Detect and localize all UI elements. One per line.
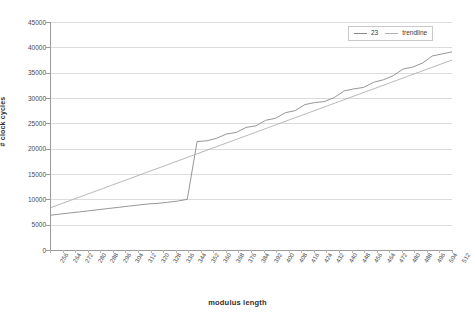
- x-axis-tick-label: 288: [109, 252, 120, 264]
- x-axis-labels: 2562642722802882963043123203283363443523…: [50, 252, 452, 294]
- x-axis-tick-label: 376: [247, 252, 258, 264]
- y-axis-labels: 0500010000150002000025000300003500040000…: [0, 22, 46, 250]
- x-axis-tick-label: 256: [59, 252, 70, 264]
- x-axis-tick-label: 496: [436, 252, 447, 264]
- legend-label-trendline: trendline: [402, 29, 427, 37]
- x-axis-tick-label: 512: [461, 252, 472, 264]
- x-axis-tick-label: 416: [310, 252, 321, 264]
- x-axis-title: modulus length: [0, 298, 475, 307]
- y-axis-tick-label: 5000: [2, 221, 46, 228]
- x-axis-tick-label: 368: [235, 252, 246, 264]
- x-axis-tick-label: 400: [285, 252, 296, 264]
- y-axis-tick-label: 30000: [2, 95, 46, 102]
- x-axis-tick-label: 464: [386, 252, 397, 264]
- x-axis-tick-label: 472: [398, 252, 409, 264]
- x-axis-tick-label: 432: [335, 252, 346, 264]
- chart-legend: 23 trendline: [348, 26, 433, 41]
- plot-area: [50, 22, 452, 250]
- x-axis-tick-label: 312: [147, 252, 158, 264]
- y-axis-tick-mark: [46, 22, 50, 23]
- x-axis-tick-label: 424: [323, 252, 334, 264]
- series-layer: [50, 22, 452, 250]
- y-axis-tick-label: 45000: [2, 19, 46, 26]
- x-axis-tick-label: 296: [122, 252, 133, 264]
- series-line-trendline: [50, 60, 452, 208]
- chart-container: 0500010000150002000025000300003500040000…: [0, 0, 475, 315]
- x-axis-tick-label: 384: [260, 252, 271, 264]
- x-axis-tick-label: 440: [348, 252, 359, 264]
- x-axis-tick-label: 480: [411, 252, 422, 264]
- x-axis-tick-label: 320: [160, 252, 171, 264]
- x-axis-tick-label: 360: [222, 252, 233, 264]
- line-swatch-series-icon: [354, 33, 367, 34]
- y-axis-tick-mark: [46, 174, 50, 175]
- x-axis-tick-label: 264: [72, 252, 83, 264]
- x-axis-tick-label: 280: [97, 252, 108, 264]
- y-axis-tick-mark: [46, 123, 50, 124]
- x-axis-tick-label: 352: [210, 252, 221, 264]
- y-axis-tick-mark: [46, 47, 50, 48]
- x-axis-tick-label: 392: [273, 252, 284, 264]
- x-axis-tick-label: 456: [373, 252, 384, 264]
- y-axis-tick-mark: [46, 225, 50, 226]
- legend-item-series: 23: [354, 29, 378, 37]
- y-axis-tick-label: 0: [2, 247, 46, 254]
- y-axis-tick-mark: [46, 73, 50, 74]
- x-axis-tick-label: 504: [448, 252, 459, 264]
- x-axis-tick-label: 304: [134, 252, 145, 264]
- x-axis-tick-label: 272: [84, 252, 95, 264]
- x-axis-tick-label: 328: [172, 252, 183, 264]
- y-axis-tick-mark: [46, 199, 50, 200]
- x-axis-tick-label: 488: [423, 252, 434, 264]
- x-axis-tick-label: 344: [197, 252, 208, 264]
- legend-item-trendline: trendline: [385, 29, 427, 37]
- y-axis-tick-mark: [46, 98, 50, 99]
- y-axis-tick-label: 35000: [2, 69, 46, 76]
- x-axis-tick-label: 336: [185, 252, 196, 264]
- line-swatch-trendline-icon: [385, 33, 398, 34]
- y-axis-tick-label: 40000: [2, 44, 46, 51]
- y-axis-tick-label: 20000: [2, 145, 46, 152]
- y-axis-tick-label: 15000: [2, 171, 46, 178]
- y-axis-title: # clock cycles: [0, 97, 6, 147]
- y-axis-line: [50, 22, 51, 250]
- y-axis-tick-label: 10000: [2, 196, 46, 203]
- x-axis-tick-label: 408: [298, 252, 309, 264]
- y-axis-tick-mark: [46, 149, 50, 150]
- y-axis-tick-mark: [46, 250, 50, 251]
- y-axis-tick-label: 25000: [2, 120, 46, 127]
- x-axis-tick-label: 448: [361, 252, 372, 264]
- legend-label-series: 23: [371, 29, 378, 37]
